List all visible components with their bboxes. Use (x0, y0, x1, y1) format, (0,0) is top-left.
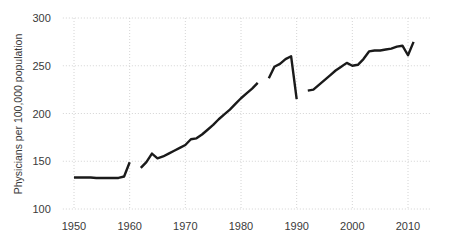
x-tick-label-1960: 1960 (117, 220, 141, 232)
x-tick-label-1950: 1950 (62, 220, 86, 232)
y-tick-label-100: 100 (33, 203, 51, 215)
x-tick-label-2000: 2000 (340, 220, 364, 232)
x-tick-label-1980: 1980 (229, 220, 253, 232)
y-tick-label-250: 250 (33, 60, 51, 72)
chart-container: 1950196019701980199020002010 10015020025… (0, 0, 459, 247)
chart-background (0, 0, 459, 247)
y-tick-label-200: 200 (33, 108, 51, 120)
x-tick-label-1970: 1970 (173, 220, 197, 232)
x-tick-label-1990: 1990 (284, 220, 308, 232)
y-tick-label-150: 150 (33, 155, 51, 167)
x-tick-label-2010: 2010 (396, 220, 420, 232)
y-axis-title: Physicians per 100,000 population (12, 34, 24, 195)
line-chart: 1950196019701980199020002010 10015020025… (0, 0, 459, 247)
y-tick-label-300: 300 (33, 12, 51, 24)
